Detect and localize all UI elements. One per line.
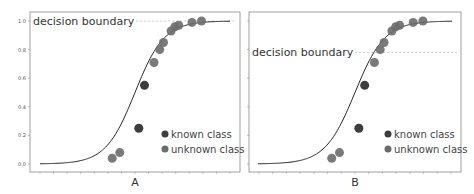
legend-label-unknown: unknown class [171,144,244,155]
legend-marker-known [385,131,392,138]
sigmoid-curve [258,21,452,164]
y-tick-label: 0.4 [18,104,26,110]
legend-label-unknown: unknown class [394,144,467,155]
unknown-class-point [197,17,206,26]
unknown-class-point [115,148,124,157]
unknown-class-point [380,38,389,47]
known-class-point [360,81,369,90]
panel-label: A [131,176,139,189]
unknown-class-point [159,38,168,47]
unknown-class-point [108,154,117,163]
legend-label-known: known class [394,129,455,140]
decision-boundary-label: decision boundary [252,46,354,59]
unknown-class-point [418,17,427,26]
unknown-class-point [150,58,159,67]
known-class-point [140,81,149,90]
y-tick-label: 0.0 [18,161,26,167]
unknown-class-point [188,18,197,27]
unknown-class-point [395,21,404,30]
unknown-class-point [409,18,418,27]
panel-label: B [351,176,359,189]
panel-b: decision boundaryknown classunknown clas… [247,12,467,189]
unknown-class-point [327,154,336,163]
y-tick-label: 0.8 [18,47,26,53]
known-class-point [354,124,363,133]
legend-marker-unknown [162,146,169,153]
panel-a: 0.00.20.40.60.81.0decision boundaryknown… [18,12,244,189]
legend: known classunknown class [162,129,245,155]
legend-label-known: known class [171,129,232,140]
legend-marker-known [162,131,169,138]
y-tick-label: 0.6 [18,75,26,81]
known-class-point [134,124,143,133]
legend-marker-unknown [385,146,392,153]
unknown-class-point [335,148,344,157]
unknown-class-point [370,58,379,67]
sigmoid-curve [40,21,230,164]
legend: known classunknown class [385,129,468,155]
y-tick-label: 0.2 [18,132,26,138]
decision-boundary-label: decision boundary [33,15,135,28]
unknown-class-point [174,21,183,30]
y-tick-label: 1.0 [18,18,26,24]
chart-figure: 0.00.20.40.60.81.0decision boundaryknown… [0,0,474,194]
